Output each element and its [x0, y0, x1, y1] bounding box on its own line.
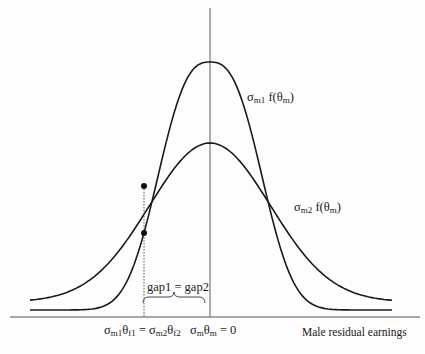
plot-svg [0, 0, 425, 354]
label-narrow-curve: σm1 f(θm) [247, 91, 294, 105]
point-wide-curve [141, 183, 147, 189]
x-tick-center: σmθm = 0 [190, 324, 236, 338]
point-narrow-curve [141, 230, 147, 236]
label-wide-curve: σm2 f(θm) [294, 201, 341, 215]
curve-sigma-m2 [30, 143, 392, 300]
gap-label: gap1 = gap2 [147, 281, 209, 294]
figure-canvas: σm1 f(θm) σm2 f(θm) gap1 = gap2 σm1θf1 =… [0, 0, 425, 354]
curve-sigma-m1 [30, 62, 392, 310]
x-tick-left: σm1θf1 = σm2θf2 [104, 324, 181, 338]
x-axis-label: Male residual earnings [302, 327, 407, 339]
